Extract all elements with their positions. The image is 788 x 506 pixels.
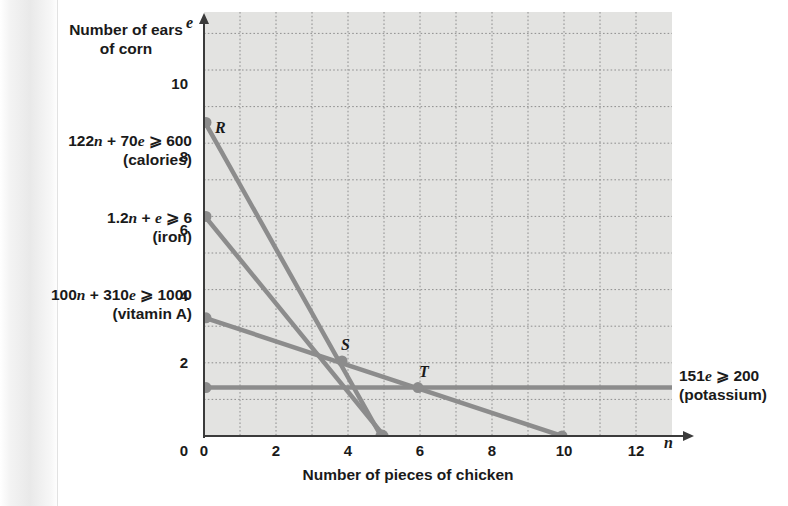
- note-calories-main: 122n + 70e ⩾ 600: [68, 132, 192, 149]
- y-tick-2: 2: [158, 355, 188, 370]
- constraint-lines: [204, 12, 672, 436]
- note-calories: 122n + 70e ⩾ 600 (calories): [10, 131, 192, 169]
- x-axis-variable: n: [664, 434, 673, 452]
- line-vitamin-a: [205, 318, 562, 436]
- x-tick-4: 4: [333, 443, 363, 458]
- dot-vertex-t: [413, 382, 424, 393]
- page-gutter-edge: [57, 0, 58, 506]
- note-vitamin-a-sub: (vitamin A): [2, 304, 192, 323]
- dot-calories-intercept: [204, 117, 212, 128]
- x-tick-6: 6: [405, 443, 435, 458]
- y-axis-line: [203, 22, 205, 438]
- vertex-label-t: T: [419, 363, 429, 381]
- x-tick-12: 12: [621, 443, 651, 458]
- note-potassium: 151e ⩾ 200 (potassium): [679, 366, 787, 404]
- y-axis-title-line1: Number of ears: [69, 21, 183, 38]
- note-iron: 1.2n + e ⩾ 6 (iron): [10, 208, 192, 246]
- y-tick-0: 0: [158, 443, 188, 458]
- dot-vertex-s: [337, 356, 348, 367]
- y-axis-arrow-icon: [199, 13, 209, 24]
- vertex-label-r: R: [215, 119, 226, 137]
- note-potassium-sub: (potassium): [679, 385, 787, 404]
- note-iron-main: 1.2n + e ⩾ 6: [107, 209, 192, 226]
- dot-potassium-intercept: [204, 382, 212, 393]
- note-vitamin-a-main: 100n + 310e ⩾ 1000: [51, 286, 192, 303]
- x-axis-title: Number of pieces of chicken: [258, 466, 558, 485]
- note-potassium-main: 151e ⩾ 200: [679, 367, 759, 384]
- x-tick-0: 0: [189, 443, 219, 458]
- y-axis-title-line2: of corn: [100, 40, 153, 57]
- x-tick-2: 2: [261, 443, 291, 458]
- figure-page: 10 8 6 4 2 0 0 2 4 6 8 10 12 e n Number …: [0, 0, 788, 506]
- x-axis-line: [204, 435, 684, 437]
- y-axis-title: Number of ears of corn: [56, 21, 196, 59]
- note-iron-sub: (iron): [10, 227, 192, 246]
- x-axis-arrow-icon: [683, 431, 694, 441]
- y-tick-10: 10: [158, 76, 188, 91]
- x-tick-8: 8: [477, 443, 507, 458]
- x-tick-10: 10: [549, 443, 579, 458]
- page-gutter-shadow: [0, 0, 58, 506]
- plot-area: [204, 12, 672, 436]
- note-calories-sub: (calories): [10, 150, 192, 169]
- note-vitamin-a: 100n + 310e ⩾ 1000 (vitamin A): [2, 285, 192, 323]
- vertex-label-s: S: [341, 336, 350, 354]
